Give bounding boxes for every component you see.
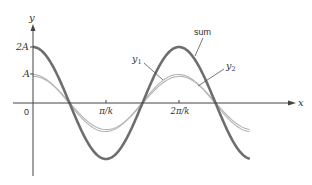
origin-label: 0 bbox=[24, 107, 29, 117]
y-axis-arrow-icon bbox=[31, 24, 36, 31]
x-axis-label: x bbox=[298, 97, 304, 108]
x-tick-label-2pi-k: 2π/k bbox=[169, 106, 189, 116]
y1-label: y1 bbox=[131, 53, 142, 66]
y-tick-label-A: A bbox=[22, 68, 30, 79]
y-tick-label-2A: 2A bbox=[15, 41, 29, 52]
sum-label: sum bbox=[194, 27, 211, 37]
annotation-sum: sum bbox=[194, 27, 211, 56]
superposition-diagram: y x 0 2A A π/k 2π/k sum y1 y2 bbox=[0, 0, 312, 185]
x-axis-arrow-icon bbox=[288, 101, 296, 106]
axes bbox=[13, 24, 296, 176]
x-tick-label-pi-k: π/k bbox=[98, 106, 113, 116]
y2-label: y2 bbox=[225, 60, 236, 73]
y-axis-label: y bbox=[28, 12, 35, 23]
sum-leader-line bbox=[195, 38, 203, 56]
